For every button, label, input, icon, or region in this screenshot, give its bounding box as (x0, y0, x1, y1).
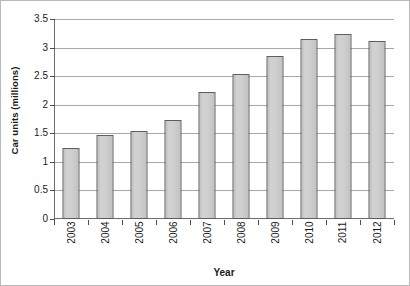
x-tick-label-text: 2005 (134, 221, 145, 243)
y-tick-label: 1 (42, 157, 48, 167)
x-tick-label-text: 2009 (270, 221, 281, 243)
x-tick-mark (292, 220, 293, 225)
x-tick-label-text: 2010 (304, 221, 315, 243)
x-tick-label-text: 2008 (236, 221, 247, 243)
bar-slot (258, 19, 292, 219)
y-tick-label: 0.5 (34, 185, 48, 195)
x-tick-mark (54, 220, 55, 225)
bar-slot (190, 19, 224, 219)
bar-2004[interactable] (97, 135, 114, 219)
x-tick-label-text: 2006 (168, 221, 179, 243)
bar-slot (122, 19, 156, 219)
x-tick-mark (190, 220, 191, 225)
x-tick-label-text: 2012 (372, 221, 383, 243)
y-tick-label: 0 (42, 214, 48, 224)
x-tick-mark (360, 220, 361, 225)
x-axis-title: Year (54, 267, 394, 278)
x-tick-mark (224, 220, 225, 225)
bar-2010[interactable] (301, 39, 318, 219)
y-tick-label: 2.5 (34, 71, 48, 81)
bar-2011[interactable] (335, 34, 352, 219)
y-tick-label: 3.5 (34, 14, 48, 24)
y-axis-title-text: Car units (millions) (9, 66, 20, 154)
bar-2005[interactable] (131, 131, 148, 219)
bar-slot (54, 19, 88, 219)
bar-2008[interactable] (233, 74, 250, 219)
x-tick-mark (122, 220, 123, 225)
y-tick-label: 2 (42, 100, 48, 110)
x-tick-label-text: 2007 (202, 221, 213, 243)
x-tick-label-2012: 2012 (354, 227, 400, 238)
x-tick-mark (156, 220, 157, 225)
y-tick-label: 3 (42, 43, 48, 53)
bar-slot (326, 19, 360, 219)
bar-slot (224, 19, 258, 219)
bar-2012[interactable] (369, 41, 386, 219)
x-tick-mark (258, 220, 259, 225)
x-tick-label-text: 2003 (66, 221, 77, 243)
x-tick-label-text: 2004 (100, 221, 111, 243)
x-tick-mark (88, 220, 89, 225)
y-tick-label: 1.5 (34, 128, 48, 138)
bar-2003[interactable] (63, 148, 80, 219)
plot-area (54, 19, 394, 219)
bar-2007[interactable] (199, 92, 216, 219)
bar-series (54, 19, 394, 219)
bar-2006[interactable] (165, 120, 182, 219)
x-tick-label-text: 2011 (337, 222, 348, 244)
bar-2009[interactable] (267, 56, 284, 219)
x-tick-mark (326, 220, 327, 225)
bar-slot (292, 19, 326, 219)
bar-slot (360, 19, 394, 219)
bar-slot (88, 19, 122, 219)
y-axis-tick-labels: 00.511.522.533.5 (23, 19, 51, 219)
x-tick-mark (394, 220, 395, 225)
y-axis-title: Car units (millions) (3, 1, 25, 219)
bar-slot (156, 19, 190, 219)
bar-chart-figure: Car units (millions) 00.511.522.533.5 20… (0, 0, 410, 286)
